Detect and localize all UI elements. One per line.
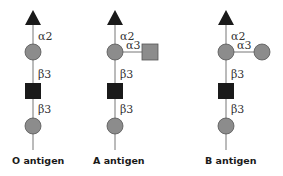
galactose-circle-icon [107, 44, 123, 60]
link-label-beta3: β3 [38, 68, 51, 81]
galactose-circle-icon [25, 118, 41, 134]
fucose-triangle-icon [25, 10, 41, 25]
link-label-alpha3: α3 [237, 39, 251, 52]
o-antigen-label: O antigen [12, 155, 64, 166]
link-label-beta3: β3 [231, 103, 244, 116]
galactose-circle-icon [218, 44, 234, 60]
link-label-beta3: β3 [120, 103, 133, 116]
link-label-beta3: β3 [38, 103, 51, 116]
galactose-branch-circle-icon [254, 44, 270, 60]
link-label-beta3: β3 [231, 68, 244, 81]
glcnac-square-icon [218, 83, 234, 99]
b-antigen-label: B antigen [205, 155, 257, 166]
galnac-square-icon [142, 44, 158, 60]
antigen-diagram: α2 β3 β3 α2 α3 β3 β3 α2 α3 β3 β3 [0, 0, 283, 176]
glcnac-square-icon [25, 83, 41, 99]
b-antigen-structure: α2 α3 β3 β3 [218, 10, 270, 150]
galactose-circle-icon [218, 118, 234, 134]
glcnac-square-icon [107, 83, 123, 99]
fucose-triangle-icon [218, 10, 234, 25]
link-label-beta3: β3 [120, 68, 133, 81]
fucose-triangle-icon [107, 10, 123, 25]
link-label-alpha3: α3 [126, 39, 140, 52]
o-antigen-structure: α2 β3 β3 [25, 10, 52, 150]
galactose-circle-icon [25, 44, 41, 60]
galactose-circle-icon [107, 118, 123, 134]
a-antigen-label: A antigen [93, 155, 145, 166]
link-label-alpha2: α2 [38, 30, 52, 43]
a-antigen-structure: α2 α3 β3 β3 [107, 10, 158, 150]
